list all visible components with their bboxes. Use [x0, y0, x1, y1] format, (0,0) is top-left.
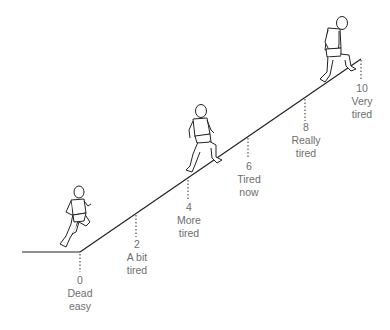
scale-value: 0	[67, 274, 92, 287]
scale-value: 4	[177, 201, 201, 214]
scale-text-line1: More	[177, 214, 201, 227]
scale-label-0: 0 Dead easy	[67, 274, 92, 313]
exertion-slope-diagram	[0, 0, 390, 330]
scale-label-6: 6 Tired now	[237, 160, 261, 199]
scale-text-line2: tired	[291, 147, 320, 160]
scale-label-8: 8 Really tired	[291, 121, 320, 160]
scale-text-line2: now	[237, 186, 261, 199]
climbing-figure-icon	[186, 105, 222, 173]
scale-label-4: 4 More tired	[177, 201, 201, 240]
scale-value: 8	[291, 121, 320, 134]
scale-text-line1: Tired	[237, 173, 261, 186]
scale-text-line2: tired	[127, 264, 147, 277]
scale-text-line2: easy	[67, 300, 92, 313]
tired-stepping-figure-icon	[320, 17, 356, 83]
scale-text-line2: tired	[177, 227, 201, 240]
scale-label-10: 10 Very tired	[351, 82, 372, 121]
running-figure-icon	[60, 186, 91, 247]
scale-text-line1: Really	[291, 134, 320, 147]
scale-value: 2	[127, 238, 147, 251]
scale-text-line1: Very	[351, 95, 372, 108]
scale-text-line1: A bit	[127, 251, 147, 264]
scale-text-line2: tired	[351, 108, 372, 121]
scale-label-2: 2 A bit tired	[127, 238, 147, 277]
scale-text-line1: Dead	[67, 287, 92, 300]
scale-value: 6	[237, 160, 261, 173]
scale-value: 10	[351, 82, 372, 95]
